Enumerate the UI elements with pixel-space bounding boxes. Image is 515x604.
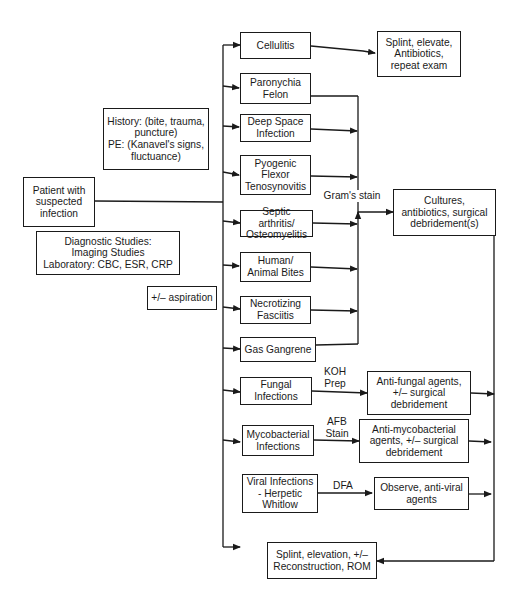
history-box: History: (bite, trauma, puncture) PE: (K… [103,108,209,170]
condition-label: Human/ Animal Bites [247,255,304,278]
treatment-splint-elevate: Splint, elevate, Antibiotics, repeat exa… [377,31,461,77]
condition-label: Septic arthritis/ Osteomyelitis [243,206,310,241]
condition-septic: Septic arthritis/ Osteomyelitis [240,210,313,237]
treatment-label: Anti-fungal agents, +/– surgical debride… [377,376,462,411]
afb-stain-label: AFB Stain [322,416,352,439]
treatment-antimycobacterial: Anti-mycobacterial agents, +/– surgical … [359,419,469,463]
condition-mycobacterial: Mycobacterial Infections [242,425,314,456]
condition-label: Necrotizing Fasciitis [250,298,301,321]
condition-cellulitis: Cellulitis [240,32,311,59]
condition-label: Cellulitis [257,40,295,52]
history-label: History: (bite, trauma, puncture) PE: (K… [107,116,204,162]
condition-label: Pyogenic Flexor Tenosynovitis [245,158,306,193]
treatment-label: Cultures, antibiotics, surgical debridem… [401,195,487,230]
dfa-label: DFA [328,480,358,492]
condition-label: Viral Infections - Herpetic Whitlow [247,476,314,511]
condition-label: Paronychia Felon [250,77,301,100]
condition-label: Mycobacterial Infections [247,429,310,452]
condition-label: Deep Space Infection [247,116,303,139]
condition-paronychia: Paronychia Felon [240,73,311,104]
condition-viral: Viral Infections - Herpetic Whitlow [242,474,318,513]
treatment-antiviral: Observe, anti-viral agents [374,477,469,510]
condition-fungal: Fungal Infections [240,377,312,405]
aspiration-box: +/– aspiration [147,286,217,310]
condition-deep-space: Deep Space Infection [240,114,311,142]
condition-label: Fungal Infections [254,379,298,402]
treatment-label: Observe, anti-viral agents [380,482,463,505]
treatment-label: Splint, elevation, +/– Reconstruction, R… [273,549,370,572]
condition-label: Gas Gangrene [245,344,312,356]
condition-necrotizing: Necrotizing Fasciitis [240,296,311,324]
treatment-label: Splint, elevate, Antibiotics, repeat exa… [386,37,453,72]
treatment-antifungal: Anti-fungal agents, +/– surgical debride… [367,371,471,415]
koh-prep-label: KOH Prep [320,366,350,389]
condition-bites: Human/ Animal Bites [240,252,311,282]
treatment-label: Anti-mycobacterial agents, +/– surgical … [370,424,459,459]
treatment-cultures: Cultures, antibiotics, surgical debridem… [393,189,496,236]
diagnostics-box: Diagnostic Studies: Imaging Studies Labo… [36,231,180,275]
condition-pyogenic: Pyogenic Flexor Tenosynovitis [240,155,311,195]
patient-label: Patient with suspected infection [33,185,86,220]
condition-gas-gangrene: Gas Gangrene [240,337,316,362]
diagnostics-label: Diagnostic Studies: Imaging Studies Labo… [43,236,173,271]
patient-box: Patient with suspected infection [23,177,95,227]
aspiration-label: +/– aspiration [151,292,212,304]
treatment-final: Splint, elevation, +/– Reconstruction, R… [267,542,377,579]
gram-stain-label: Gram's stain [320,190,384,202]
